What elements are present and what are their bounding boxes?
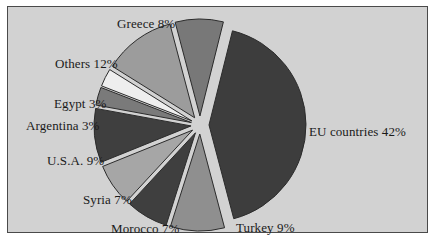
pie-label-argentina: Argentina 3%	[26, 118, 100, 134]
pie-label-eu-countries: EU countries 42%	[309, 124, 406, 140]
pie-slice-eu-countries[interactable]	[209, 31, 306, 219]
pie-label-u-s-a: U.S.A. 9%	[47, 153, 104, 169]
pie-label-egypt: Egypt 3%	[54, 96, 106, 112]
pie-label-morocco: Morocco 7%	[111, 221, 180, 237]
pie-label-syria: Syria 7%	[83, 192, 132, 208]
pie-label-greece: Greece 8%	[117, 16, 175, 32]
pie-label-turkey: Turkey 9%	[236, 220, 295, 236]
pie-label-others: Others 12%	[55, 56, 118, 72]
